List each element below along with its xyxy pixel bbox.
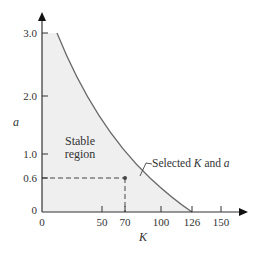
y-tick-3.0: 3.0: [23, 27, 37, 39]
x-tick-150: 150: [213, 216, 230, 228]
stable-region-fill: [42, 33, 192, 212]
x-tick-70: 70: [120, 216, 132, 228]
y-axis-label: a: [13, 115, 19, 129]
chart-container: 3.0 2.0 1.0 0.6 0 0 50 70 100 126 150 a …: [0, 0, 260, 255]
x-axis-label: K: [138, 230, 148, 244]
stable-region-label-line2: region: [65, 147, 96, 161]
selected-point-annotation: Selected K and a: [152, 157, 230, 169]
stability-chart: 3.0 2.0 1.0 0.6 0 0 50 70 100 126 150 a …: [0, 0, 260, 255]
x-tick-126: 126: [184, 216, 201, 228]
x-axis-arrow-icon: [239, 208, 248, 216]
y-tick-0.6: 0.6: [23, 172, 37, 184]
x-tick-50: 50: [97, 216, 109, 228]
annot-a: a: [224, 157, 230, 169]
annot-mid: and: [202, 157, 224, 169]
y-tick-2.0: 2.0: [23, 90, 37, 102]
selected-point-marker: [123, 176, 127, 180]
y-tick-0: 0: [32, 204, 38, 216]
x-tick-100: 100: [153, 216, 170, 228]
stable-region-label-line1: Stable: [65, 134, 95, 148]
y-axis-arrow-icon: [38, 12, 46, 21]
y-tick-1.0: 1.0: [23, 148, 37, 160]
annot-pre: Selected: [152, 157, 194, 169]
x-tick-0: 0: [39, 216, 45, 228]
